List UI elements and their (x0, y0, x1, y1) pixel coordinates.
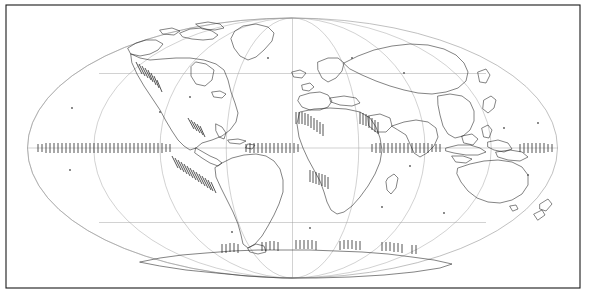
coastline-south-america (215, 154, 283, 248)
coastline-india (392, 120, 438, 157)
coastline-japan (483, 96, 496, 113)
island-marker (351, 57, 353, 59)
coastline-antarctica (140, 250, 452, 278)
coastline-great-lakes (212, 91, 226, 98)
coastline-new-guinea (496, 150, 528, 161)
island-marker (71, 107, 73, 109)
boundary-southwest-african-margin (310, 170, 328, 189)
coastline-iceland (292, 70, 306, 78)
island-marker (267, 57, 269, 59)
coastline-borneo (462, 134, 478, 145)
island-marker (381, 206, 383, 208)
coastline-central-america (195, 148, 222, 166)
island-marker (69, 169, 71, 171)
plate-boundary-ticks (38, 62, 552, 254)
boundary-arabian-margin (360, 112, 378, 134)
boundary-west-african-margin (296, 112, 323, 136)
coastline-mediterranean-europe (330, 96, 360, 106)
coastline-indonesia (446, 145, 486, 155)
island-marker (159, 111, 161, 113)
coastline-western-europe (298, 92, 332, 110)
boundary-antarctic-margin (222, 240, 416, 254)
world-map-figure (0, 0, 589, 293)
coastline-arabia (368, 114, 392, 132)
island-marker (403, 72, 405, 74)
coastline-alaska (128, 40, 163, 56)
coastline-north-america (131, 54, 238, 150)
coastline-australia (457, 160, 528, 203)
island-marker (537, 122, 539, 124)
island-marker (443, 212, 445, 214)
coastline-east-asia (438, 94, 474, 138)
island-marker (409, 165, 411, 167)
coastline-siberia (344, 44, 468, 94)
boundary-middle-america-trench (188, 118, 205, 137)
world-map-canvas (0, 0, 589, 293)
boundary-north-american-trench (136, 62, 162, 92)
island-marker (231, 231, 233, 233)
coastline-kamchatka (478, 69, 490, 83)
coastline-tasmania (510, 205, 518, 211)
coastline-new-zealand-south (534, 210, 545, 220)
island-marker (309, 227, 311, 229)
coastline-hudson-bay (191, 62, 214, 86)
figure-frame-border (6, 5, 580, 288)
island-marker (503, 127, 505, 129)
island-marker (189, 96, 191, 98)
boundary-peru-chile-trench (172, 156, 216, 193)
island-marker (527, 174, 529, 176)
coastline-madagascar (386, 174, 398, 194)
coastline-british-isles (302, 83, 314, 91)
coastline-banks-island (160, 28, 180, 35)
coastline-java (452, 156, 472, 163)
coastline-greenland (231, 24, 274, 60)
coastline-florida (216, 124, 226, 139)
coastline-scandinavia (318, 58, 344, 82)
coastline-cuba (228, 139, 246, 144)
coastline-new-zealand-north (540, 199, 552, 211)
